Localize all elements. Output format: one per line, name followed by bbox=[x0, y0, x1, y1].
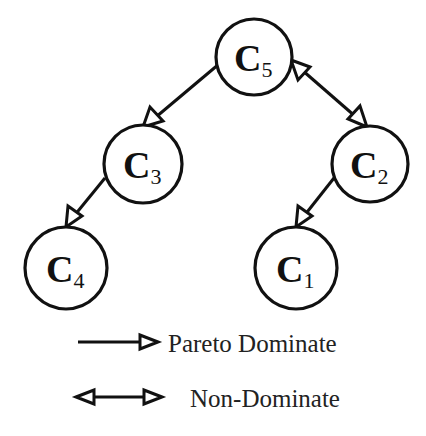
double-arrow-left-icon bbox=[76, 390, 94, 404]
legend-item-non-dominate: Non-Dominate bbox=[76, 385, 340, 412]
dominance-tree-diagram: C5 C3 C2 C4 C1 Pareto Dominate Non-Domin… bbox=[0, 0, 426, 436]
legend-item-pareto: Pareto Dominate bbox=[78, 330, 337, 357]
edge-c3-c4 bbox=[66, 178, 105, 227]
legend-label-pareto: Pareto Dominate bbox=[168, 330, 337, 357]
node-c5: C5 bbox=[216, 19, 292, 95]
legend: Pareto Dominate Non-Dominate bbox=[76, 330, 340, 412]
node-c2: C2 bbox=[332, 126, 408, 202]
edge-c5-c2 bbox=[291, 60, 367, 127]
node-c4: C4 bbox=[25, 227, 107, 309]
arrowhead-icon bbox=[348, 106, 367, 127]
node-c1: C1 bbox=[255, 227, 337, 309]
edge-c2-c1 bbox=[296, 178, 334, 227]
single-arrow-icon bbox=[140, 335, 158, 349]
node-c3: C3 bbox=[104, 125, 182, 203]
arrowhead-icon bbox=[291, 60, 310, 80]
legend-label-non-dominate: Non-Dominate bbox=[190, 385, 340, 412]
edge-c5-c3 bbox=[143, 64, 219, 127]
double-arrow-right-icon bbox=[144, 390, 162, 404]
